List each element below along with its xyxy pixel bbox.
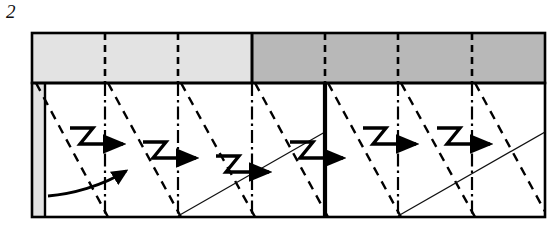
left-edge-strip	[32, 83, 45, 217]
step-arrow-2	[143, 142, 196, 158]
step-arrows	[70, 128, 490, 172]
upper-band	[32, 33, 545, 83]
schematic-diagram	[0, 0, 559, 228]
band-light-region	[32, 33, 252, 83]
dashed-diagonal-1	[36, 83, 108, 217]
dashed-diagonal-3	[181, 83, 255, 217]
dashed-diagonal-2	[108, 83, 181, 217]
step-arrow-6	[437, 128, 490, 144]
step-arrow-1	[70, 128, 123, 144]
step-arrow-4	[290, 142, 343, 158]
curved-arrow	[48, 171, 126, 196]
dashed-diagonal-4	[255, 83, 328, 217]
field-outline	[32, 83, 545, 217]
dashed-diagonal-6	[401, 83, 475, 217]
figure-root: 2	[0, 0, 559, 228]
dashed-diagonal-5	[328, 83, 401, 217]
dashed-diagonal-7	[475, 83, 548, 217]
step-arrow-5	[363, 128, 416, 144]
dashed-diagonals	[36, 83, 548, 217]
